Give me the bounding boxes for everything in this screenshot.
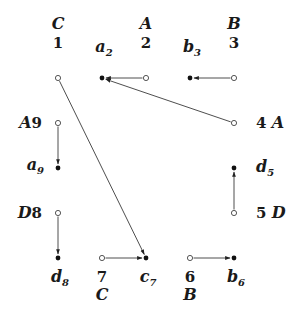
filled-node-c7 bbox=[144, 256, 149, 261]
open-node-9 bbox=[55, 120, 60, 125]
node-label-4: 4 A bbox=[256, 113, 284, 132]
open-node-7 bbox=[99, 255, 104, 260]
node-letter-7: C bbox=[96, 285, 109, 304]
node-letter-2: A bbox=[138, 14, 152, 33]
node-label-a9: a9 bbox=[27, 155, 44, 176]
node-label-d8: d8 bbox=[51, 267, 69, 288]
node-label-b3: b3 bbox=[183, 37, 201, 58]
filled-node-b6 bbox=[232, 256, 237, 261]
nodes-layer bbox=[55, 75, 236, 260]
graph-diagram: C1a2A2b3B34 Ad55 DA9a9D8d87Cc76Bb6 bbox=[0, 0, 304, 319]
open-node-4 bbox=[231, 120, 236, 125]
node-label-d5: d5 bbox=[256, 157, 274, 178]
filled-node-b3 bbox=[188, 76, 193, 81]
filled-node-d8 bbox=[56, 256, 61, 261]
filled-node-a9 bbox=[56, 166, 61, 171]
node-label-9: A9 bbox=[17, 113, 42, 132]
node-number-3: 3 bbox=[229, 34, 239, 52]
open-node-6 bbox=[187, 255, 192, 260]
node-label-5: 5 D bbox=[256, 203, 286, 222]
node-label-c7: c7 bbox=[140, 267, 157, 288]
filled-node-a2 bbox=[100, 76, 105, 81]
node-number-7: 7 bbox=[97, 268, 107, 286]
node-label-a2: a2 bbox=[95, 37, 112, 58]
node-label-8: D8 bbox=[17, 203, 42, 222]
open-node-5 bbox=[231, 210, 236, 215]
node-letter-3: B bbox=[226, 14, 241, 33]
edge-1-to-c7 bbox=[60, 81, 145, 254]
filled-node-d5 bbox=[232, 166, 237, 171]
edges-layer bbox=[58, 78, 234, 258]
node-number-2: 2 bbox=[141, 34, 151, 52]
node-letter-6: B bbox=[182, 285, 197, 304]
edge-4-to-a2 bbox=[106, 79, 231, 122]
node-label-b6: b6 bbox=[227, 267, 245, 288]
open-node-1 bbox=[55, 75, 60, 80]
open-node-2 bbox=[143, 75, 148, 80]
node-letter-1: C bbox=[52, 14, 65, 33]
node-number-1: 1 bbox=[53, 34, 63, 52]
open-node-3 bbox=[231, 75, 236, 80]
node-number-6: 6 bbox=[185, 268, 195, 286]
open-node-8 bbox=[55, 210, 60, 215]
labels-layer: C1a2A2b3B34 Ad55 DA9a9D8d87Cc76Bb6 bbox=[17, 14, 286, 304]
